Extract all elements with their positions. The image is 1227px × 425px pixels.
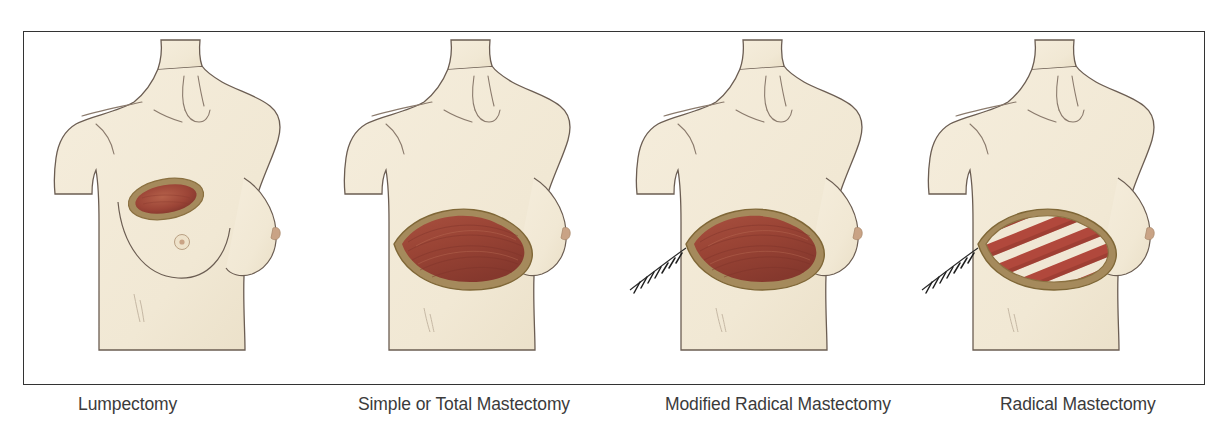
nipple-right xyxy=(271,227,280,239)
caption-modified-radical-mastectomy: Modified Radical Mastectomy xyxy=(665,392,891,416)
figure-panel-radical-mastectomy xyxy=(904,32,1204,384)
caption-lumpectomy: Lumpectomy xyxy=(78,392,177,416)
nipple-left-center xyxy=(179,239,184,244)
nipple-right xyxy=(1145,227,1154,239)
figure-panel-lumpectomy xyxy=(30,32,330,384)
caption-row: Lumpectomy Simple or Total Mastectomy Mo… xyxy=(0,392,1227,425)
nipple-right xyxy=(561,227,570,239)
suture-line xyxy=(630,248,686,293)
caption-simple-total-mastectomy: Simple or Total Mastectomy xyxy=(358,392,570,416)
nipple-right xyxy=(853,227,862,239)
suture-line xyxy=(922,248,978,293)
figure-panel-modified-radical-mastectomy xyxy=(612,32,912,384)
figure-panel-simple-mastectomy xyxy=(320,32,620,384)
illustration-frame xyxy=(23,31,1205,385)
caption-radical-mastectomy: Radical Mastectomy xyxy=(1000,392,1156,416)
